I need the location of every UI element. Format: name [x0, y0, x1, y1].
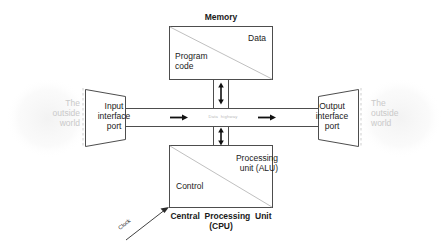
memory-data-label: Data	[210, 33, 266, 43]
output-interface-port-label: Output interface port	[308, 101, 356, 131]
control-label: Control	[176, 181, 224, 191]
computer-architecture-diagram: Memory Data Program code The outside wor…	[0, 0, 444, 251]
memory-bus-arrow-icon	[218, 83, 224, 105]
highway-arrow-right-icon	[258, 115, 276, 121]
memory-title: Memory	[169, 12, 273, 22]
outside-world-label-left: The outside world	[18, 98, 80, 128]
memory-program-code-label: Program code	[175, 51, 235, 71]
processing-unit-alu-label: Processing unit (ALU)	[216, 153, 278, 173]
highway-arrow-left-icon	[170, 115, 188, 121]
input-interface-port-label: Input interface port	[90, 101, 138, 131]
cpu-title: Central Processing Unit (CPU)	[144, 211, 298, 231]
data-highway-label: Data highway	[200, 112, 246, 122]
cpu-bus-arrow-icon	[218, 128, 224, 146]
outside-world-label-right: The outside world	[371, 98, 433, 128]
